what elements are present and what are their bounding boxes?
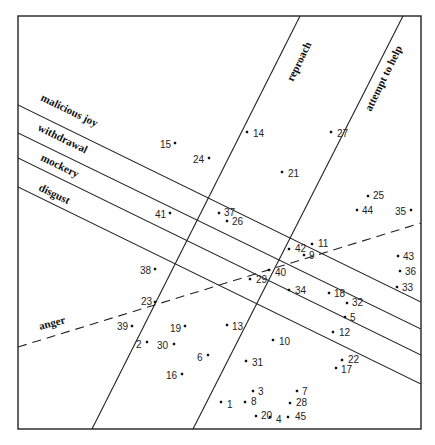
- point-marker: [226, 220, 228, 222]
- data-point-28: 28: [289, 397, 308, 408]
- data-point-16: 16: [166, 370, 183, 381]
- data-point-12: 12: [332, 327, 351, 338]
- point-marker: [252, 390, 254, 392]
- point-marker: [328, 292, 330, 294]
- point-label: 6: [197, 352, 203, 363]
- point-label: 9: [309, 250, 315, 261]
- data-point-43: 43: [397, 251, 415, 262]
- point-label: 5: [350, 312, 356, 323]
- point-label: 1: [227, 399, 233, 410]
- point-label: 17: [341, 364, 353, 375]
- data-point-24: 24: [193, 154, 210, 165]
- data-point-20: 20: [255, 410, 273, 421]
- data-point-32: 32: [346, 297, 364, 308]
- data-point-30: 30: [157, 340, 175, 351]
- point-marker: [220, 401, 222, 403]
- point-label: 42: [295, 243, 307, 254]
- point-marker: [397, 255, 399, 257]
- data-point-44: 44: [356, 205, 374, 216]
- data-point-14: 14: [246, 128, 265, 139]
- data-point-15: 15: [160, 139, 176, 150]
- data-point-39: 39: [117, 321, 133, 332]
- point-label: 19: [170, 323, 182, 334]
- axis-label-mockery: mockery: [39, 151, 81, 180]
- point-label: 32: [352, 297, 364, 308]
- point-label: 16: [166, 370, 178, 381]
- point-marker: [288, 289, 290, 291]
- point-label: 8: [251, 396, 257, 407]
- point-label: 10: [279, 336, 291, 347]
- point-label: 38: [140, 265, 152, 276]
- point-marker: [410, 209, 412, 211]
- point-label: 24: [193, 154, 205, 165]
- axis-line-anger: [18, 223, 421, 347]
- point-marker: [399, 270, 401, 272]
- point-marker: [272, 339, 274, 341]
- point-label: 34: [295, 285, 307, 296]
- point-marker: [311, 243, 313, 245]
- point-marker: [181, 373, 183, 375]
- axis-line-malicious-joy: [18, 105, 421, 302]
- point-marker: [367, 195, 369, 197]
- point-label: 13: [232, 321, 244, 332]
- point-marker: [169, 212, 171, 214]
- point-label: 21: [288, 168, 300, 179]
- point-label: 20: [261, 410, 273, 421]
- point-label: 29: [256, 274, 268, 285]
- data-point-36: 36: [399, 266, 417, 277]
- data-point-5: 5: [344, 312, 356, 323]
- data-point-35: 35: [395, 206, 412, 217]
- point-label: 40: [275, 267, 287, 278]
- point-label: 28: [296, 397, 308, 408]
- data-point-37: 37: [218, 207, 236, 218]
- point-marker: [244, 401, 246, 403]
- axes-layer: [18, 16, 421, 429]
- point-label: 18: [334, 288, 346, 299]
- point-label: 31: [252, 357, 264, 368]
- vector-projection-diagram: malicious joywithdrawalmockerydisgustrep…: [0, 0, 435, 445]
- data-point-31: 31: [245, 357, 264, 368]
- point-marker: [226, 324, 228, 326]
- point-marker: [218, 212, 220, 214]
- data-point-19: 19: [170, 323, 186, 334]
- point-label: 14: [253, 128, 265, 139]
- point-label: 11: [318, 238, 329, 249]
- data-point-27: 27: [330, 128, 349, 139]
- data-point-1: 1: [220, 399, 233, 410]
- point-marker: [255, 415, 257, 417]
- points-layer: 1234567891011121314151617181920212223242…: [117, 128, 417, 425]
- data-point-18: 18: [328, 288, 346, 299]
- point-marker: [346, 302, 348, 304]
- point-label: 7: [302, 386, 308, 397]
- data-point-42: 42: [288, 243, 307, 254]
- point-label: 2: [136, 339, 142, 350]
- data-point-45: 45: [287, 411, 307, 422]
- point-label: 3: [258, 386, 264, 397]
- point-label: 45: [295, 411, 307, 422]
- point-marker: [249, 278, 251, 280]
- point-marker: [207, 354, 209, 356]
- point-marker: [146, 341, 148, 343]
- data-point-17: 17: [335, 364, 353, 375]
- point-marker: [154, 301, 156, 303]
- point-label: 43: [403, 251, 415, 262]
- point-marker: [335, 367, 337, 369]
- point-label: 36: [405, 266, 417, 277]
- data-point-34: 34: [288, 285, 307, 296]
- point-marker: [208, 157, 210, 159]
- point-marker: [303, 254, 305, 256]
- point-marker: [344, 316, 346, 318]
- point-label: 41: [155, 209, 167, 220]
- axis-label-attempt-to-help: attempt to help: [362, 43, 404, 113]
- point-marker: [330, 131, 332, 133]
- point-marker: [396, 286, 398, 288]
- data-point-10: 10: [272, 336, 291, 347]
- point-marker: [184, 325, 186, 327]
- point-marker: [296, 390, 298, 392]
- point-marker: [332, 331, 334, 333]
- point-marker: [287, 416, 289, 418]
- point-marker: [341, 359, 343, 361]
- data-point-25: 25: [367, 190, 385, 201]
- point-label: 44: [362, 205, 374, 216]
- data-point-41: 41: [155, 209, 171, 220]
